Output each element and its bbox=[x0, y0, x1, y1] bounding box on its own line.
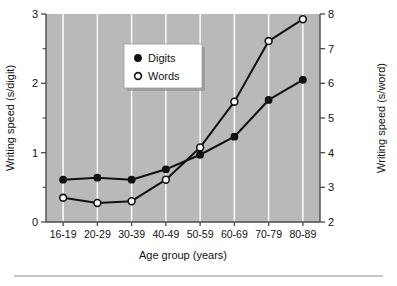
legend-label-digits: Digits bbox=[148, 52, 176, 64]
category-label-30-39: 30-39 bbox=[118, 228, 145, 240]
datapoint-words-20-29 bbox=[94, 200, 101, 207]
datapoint-words-70-79 bbox=[265, 38, 272, 45]
datapoint-words-40-49 bbox=[162, 176, 169, 183]
category-label-50-59: 50-59 bbox=[187, 228, 214, 240]
right-tick-label-2: 2 bbox=[328, 216, 334, 228]
datapoint-digits-16-19 bbox=[60, 176, 67, 183]
left-tick-label-1: 1 bbox=[32, 147, 38, 159]
datapoint-digits-20-29 bbox=[94, 174, 101, 181]
left-axis-title: Writing speed (s/digit) bbox=[4, 65, 16, 171]
category-label-16-19: 16-19 bbox=[50, 228, 77, 240]
right-axis-title: Writing speed (s/word) bbox=[375, 63, 387, 173]
category-label-40-49: 40-49 bbox=[152, 228, 179, 240]
category-label-60-69: 60-69 bbox=[221, 228, 248, 240]
right-tick-label-3: 3 bbox=[328, 181, 334, 193]
x-axis-title: Age group (years) bbox=[139, 249, 227, 261]
right-tick-label-7: 7 bbox=[328, 43, 334, 55]
chart-legend: DigitsWords bbox=[124, 44, 205, 91]
left-tick-label-0: 0 bbox=[32, 216, 38, 228]
datapoint-digits-50-59 bbox=[197, 151, 204, 158]
datapoint-digits-30-39 bbox=[128, 176, 135, 183]
datapoint-words-60-69 bbox=[231, 98, 238, 105]
right-tick-label-4: 4 bbox=[328, 147, 334, 159]
right-tick-label-6: 6 bbox=[328, 77, 334, 89]
datapoint-words-80-89 bbox=[299, 16, 306, 23]
legend-marker-words bbox=[135, 73, 142, 80]
category-label-70-79: 70-79 bbox=[255, 228, 282, 240]
legend-label-words: Words bbox=[148, 70, 180, 82]
datapoint-digits-60-69 bbox=[231, 133, 238, 140]
left-tick-label-2: 2 bbox=[32, 77, 38, 89]
category-label-80-89: 80-89 bbox=[289, 228, 316, 240]
right-tick-label-8: 8 bbox=[328, 8, 334, 20]
datapoint-digits-80-89 bbox=[300, 77, 307, 84]
datapoint-digits-70-79 bbox=[265, 97, 272, 104]
legend-marker-digits bbox=[135, 55, 142, 62]
left-tick-label-3: 3 bbox=[32, 8, 38, 20]
datapoint-words-50-59 bbox=[197, 144, 204, 151]
figure-container: 0123 2345678 16-1920-2930-3940-4950-5960… bbox=[0, 0, 397, 286]
datapoint-words-16-19 bbox=[60, 194, 67, 201]
category-label-20-29: 20-29 bbox=[84, 228, 111, 240]
datapoint-digits-40-49 bbox=[163, 166, 170, 173]
right-tick-label-5: 5 bbox=[328, 112, 334, 124]
writing-speed-line-chart: 0123 2345678 16-1920-2930-3940-4950-5960… bbox=[0, 0, 397, 286]
datapoint-words-30-39 bbox=[128, 198, 135, 205]
